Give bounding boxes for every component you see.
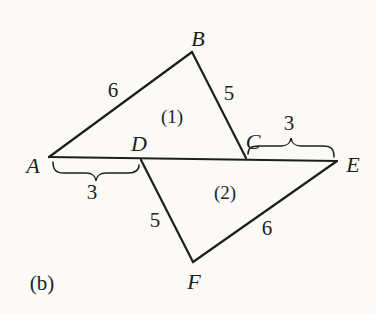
side-AB-length: 6 xyxy=(108,78,119,102)
vertex-C-label: C xyxy=(246,129,261,154)
geometry-figure: A B C D E F 6 5 3 3 5 6 (1) (2) (b) xyxy=(0,0,376,314)
side-DF-length: 5 xyxy=(150,208,161,232)
brace-CE xyxy=(248,138,334,157)
segment-CE-length: 3 xyxy=(284,111,295,135)
vertex-F-label: F xyxy=(186,269,201,294)
side-AB-line xyxy=(49,52,192,157)
vertex-A-label: A xyxy=(24,153,40,178)
side-BC-line xyxy=(192,52,246,158)
side-BC-length: 5 xyxy=(224,81,235,105)
triangles-diagram: A B C D E F 6 5 3 3 5 6 (1) (2) (b) xyxy=(0,0,376,314)
side-FE-length: 6 xyxy=(262,216,273,240)
baseline-ADCE-line xyxy=(49,157,337,161)
vertex-E-label: E xyxy=(345,152,360,177)
side-FE-line xyxy=(193,161,337,262)
vertex-D-label: D xyxy=(130,131,147,156)
brace-AD xyxy=(53,162,139,181)
segment-AD-length: 3 xyxy=(87,180,98,204)
triangle2-region-label: (2) xyxy=(214,182,236,204)
figure-caption: (b) xyxy=(30,271,55,295)
triangle1-region-label: (1) xyxy=(161,106,183,128)
vertex-B-label: B xyxy=(191,26,204,51)
